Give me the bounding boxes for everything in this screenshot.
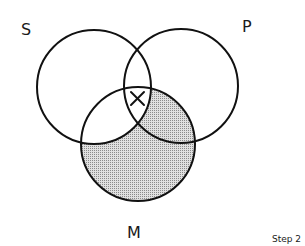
label-s: S — [21, 20, 31, 39]
caption-step: Step 2 — [272, 234, 301, 244]
label-p: P — [242, 17, 252, 36]
venn-diagram: S P M Step 2 — [0, 0, 305, 246]
label-m: M — [127, 223, 141, 242]
